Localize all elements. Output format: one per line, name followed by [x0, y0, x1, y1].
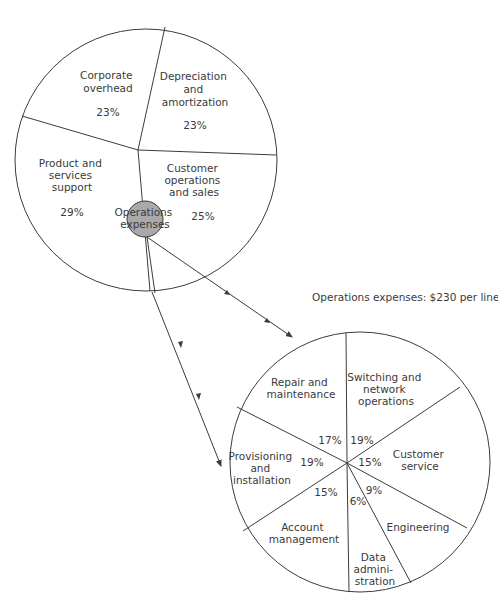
slice-label-customer-service: Customer service — [393, 448, 447, 472]
arrow-mid-marker — [178, 341, 183, 348]
bottom-pie-divider — [346, 333, 347, 463]
slice-label-provisioning: Provisioning and installation — [229, 450, 296, 486]
slice-percent-depreciation: 23% — [183, 119, 206, 131]
slice-percent-customer-service: 15% — [358, 456, 381, 468]
connector-arrows — [147, 237, 292, 466]
top-pie-divider — [22, 116, 138, 150]
slice-percent-switching: 19% — [350, 434, 373, 446]
slice-percent-customer-operations: 25% — [191, 210, 214, 222]
top-pie-divider — [138, 27, 165, 150]
operations-expense-diagram: Corporate overhead 23% Depreciation and … — [0, 0, 498, 615]
slice-percent-corporate-overhead: 23% — [96, 106, 119, 118]
slice-label-repair: Repair and maintenance — [267, 376, 336, 400]
slice-label-switching: Switching and network operations — [347, 371, 424, 407]
slice-percent-product-services: 29% — [60, 206, 83, 218]
operations-caption: Operations expenses: $230 per line — [312, 291, 498, 303]
slice-label-corporate-overhead: Corporate overhead — [80, 69, 136, 94]
slice-percent-engineering: 9% — [366, 484, 383, 496]
slice-label-account-management: Account management — [269, 521, 339, 545]
connector-line-lower — [152, 292, 221, 466]
slice-percent-account-management: 15% — [314, 486, 337, 498]
top-pie: Corporate overhead 23% Depreciation and … — [15, 27, 277, 291]
arrow-mid-marker — [196, 393, 201, 400]
slice-label-product-services: Product and services support — [39, 157, 105, 193]
top-pie-divider — [138, 150, 276, 155]
bottom-pie-divider — [347, 463, 349, 592]
slice-percent-data-administration: 6% — [350, 495, 367, 507]
slice-label-customer-operations: Customer operations and sales — [164, 162, 223, 198]
connector-line-upper — [147, 237, 292, 337]
slice-label-depreciation: Depreciation and amortization — [160, 70, 230, 108]
bottom-pie: Switching and network operations 19% Cus… — [229, 332, 490, 592]
slice-label-engineering: Engineering — [387, 521, 450, 533]
slice-percent-repair: 17% — [318, 434, 341, 446]
slice-label-data-administration: Data admini- stration — [354, 551, 397, 587]
slice-percent-provisioning: 19% — [300, 456, 323, 468]
hub-label: Operations expenses — [114, 206, 175, 230]
